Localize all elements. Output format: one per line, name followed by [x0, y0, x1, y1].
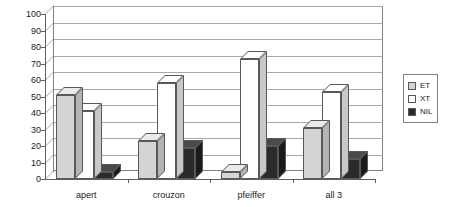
bar-et-crouzon — [138, 141, 157, 179]
bar-side-face — [322, 120, 330, 179]
y-tick-label: 80 — [31, 43, 41, 52]
y-tick-mark — [41, 179, 45, 180]
bar-front-face — [138, 141, 157, 179]
y-tick-label: 40 — [31, 109, 41, 118]
bar-xt-pfeiffer — [240, 59, 259, 179]
bar-side-face — [341, 84, 349, 179]
y-tick-label: 20 — [31, 142, 41, 151]
x-category-label: pfeiffer — [238, 190, 265, 200]
bar-chart: 0102030405060708090100 apertcrouzonpfeif… — [0, 0, 462, 207]
x-tick-mark — [128, 179, 129, 183]
y-tick-label: 70 — [31, 59, 41, 68]
swatch-xt-icon — [408, 95, 416, 103]
bar-side-face — [94, 103, 102, 179]
bar-et-apert — [56, 95, 75, 179]
x-tick-mark — [375, 179, 376, 183]
legend-label-et: ET — [420, 82, 430, 90]
bar-series-group — [45, 14, 375, 179]
y-tick-label: 30 — [31, 125, 41, 134]
bar-side-face — [259, 51, 267, 179]
bar-et-all-3 — [303, 128, 322, 179]
x-category-label: crouzon — [153, 190, 185, 200]
bar-front-face — [303, 128, 322, 179]
y-tick-label: 90 — [31, 26, 41, 35]
plot-area: 0102030405060708090100 apertcrouzonpfeif… — [45, 14, 375, 179]
legend-label-nil: NIL — [420, 108, 432, 116]
legend-item-xt: XT — [408, 92, 432, 105]
x-tick-mark — [210, 179, 211, 183]
bar-et-pfeiffer — [221, 172, 240, 179]
x-tick-mark — [293, 179, 294, 183]
bar-front-face — [221, 172, 240, 179]
legend-label-xt: XT — [420, 95, 430, 103]
bar-front-face — [240, 59, 259, 179]
legend-item-et: ET — [408, 79, 432, 92]
chart-floor — [45, 179, 383, 188]
x-category-label: all 3 — [325, 190, 342, 200]
y-tick-label: 60 — [31, 76, 41, 85]
bar-front-face — [56, 95, 75, 179]
x-category-label: apert — [76, 190, 97, 200]
y-tick-label: 10 — [31, 158, 41, 167]
swatch-et-icon — [408, 82, 416, 90]
bar-side-face — [75, 87, 83, 179]
y-tick-label: 100 — [26, 10, 41, 19]
chart-legend: ET XT NIL — [403, 74, 438, 123]
swatch-nil-icon — [408, 108, 416, 116]
legend-item-nil: NIL — [408, 105, 432, 118]
gridline — [53, 6, 383, 7]
y-tick-label: 50 — [31, 92, 41, 101]
bar-side-face — [176, 75, 184, 179]
